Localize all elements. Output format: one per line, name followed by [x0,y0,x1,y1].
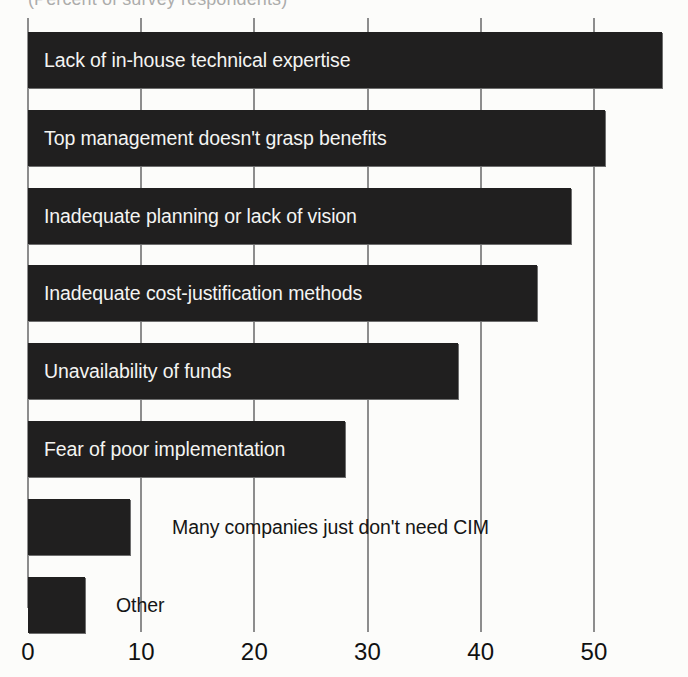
bar-category-label: Many companies just don't need CIM [172,516,489,539]
x-tick-label-40: 40 [467,638,494,666]
bar-row: Inadequate cost-justification methods [0,265,688,321]
bar-chart: (Percent of survey respondents) Lack of … [0,0,688,677]
plot-area: Lack of in-house technical expertiseTop … [0,18,688,608]
bar-row: Many companies just don't need CIM [0,499,688,555]
bar-category-label: Fear of poor implementation [44,438,285,461]
x-tick-label-50: 50 [580,638,607,666]
x-axis: 01020304050 [0,608,688,677]
bar [28,499,130,555]
bar-row: Unavailability of funds [0,343,688,399]
bar-category-label: Lack of in-house technical expertise [44,49,350,72]
tick-mark-30 [367,608,369,632]
tick-mark-20 [253,608,255,632]
x-tick-label-20: 20 [241,638,268,666]
bar-row: Inadequate planning or lack of vision [0,188,688,244]
bar-category-label: Inadequate planning or lack of vision [44,205,357,228]
bar-row: Top management doesn't grasp benefits [0,110,688,166]
tick-mark-50 [593,608,595,632]
tick-mark-10 [140,608,142,632]
bar-category-label: Inadequate cost-justification methods [44,282,362,305]
bar-row: Lack of in-house technical expertise [0,32,688,88]
bar-category-label: Unavailability of funds [44,360,231,383]
bar-row: Fear of poor implementation [0,421,688,477]
chart-subtitle: (Percent of survey respondents) [28,0,287,10]
bar-category-label: Top management doesn't grasp benefits [44,127,387,150]
x-tick-label-0: 0 [21,638,35,666]
tick-mark-40 [480,608,482,632]
x-tick-label-30: 30 [354,638,381,666]
x-tick-label-10: 10 [128,638,155,666]
